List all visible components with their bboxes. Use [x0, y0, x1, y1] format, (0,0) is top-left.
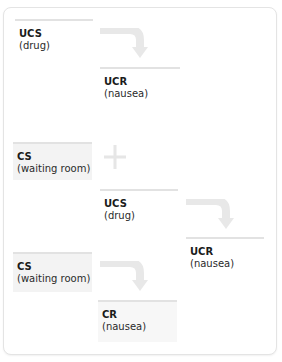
drug-label: (drug)	[104, 210, 178, 222]
ucr-label: UCR	[190, 246, 264, 258]
ucs-label: UCS	[104, 198, 178, 210]
cs-label: CS	[17, 151, 92, 163]
arrow-right-down-icon	[100, 261, 150, 293]
plus-icon	[104, 145, 126, 169]
nausea-label: (nausea)	[104, 88, 180, 100]
waiting-room-label: (waiting room)	[17, 163, 92, 175]
cs-waiting-room-box-stage-2: CS (waiting room)	[13, 142, 92, 180]
nausea-label: (nausea)	[102, 321, 177, 333]
waiting-room-label: (waiting room)	[17, 273, 92, 285]
cr-nausea-box-stage-3: CR (nausea)	[98, 300, 177, 342]
ucs-drug-box-stage-2: UCS (drug)	[100, 189, 178, 225]
ucr-label: UCR	[104, 76, 180, 88]
ucs-drug-box-stage-1: UCS (drug)	[15, 19, 93, 55]
ucs-label: UCS	[19, 28, 93, 40]
arrow-right-down-icon	[100, 28, 150, 60]
cs-label: CS	[17, 261, 92, 273]
cs-waiting-room-box-stage-3: CS (waiting room)	[13, 252, 92, 292]
ucr-nausea-box-stage-2: UCR (nausea)	[186, 237, 264, 273]
arrow-right-down-icon	[186, 199, 236, 231]
drug-label: (drug)	[19, 40, 93, 52]
cr-label: CR	[102, 309, 177, 321]
ucr-nausea-box-stage-1: UCR (nausea)	[100, 67, 180, 103]
nausea-label: (nausea)	[190, 258, 264, 270]
